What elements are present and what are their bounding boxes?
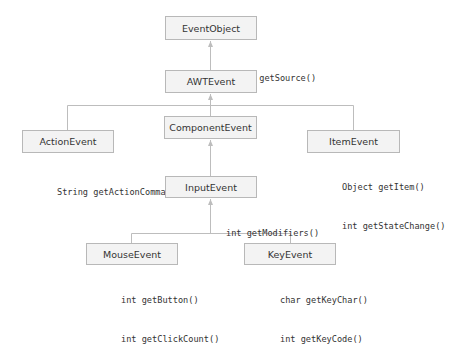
method: int getModifiers() [226, 227, 319, 240]
class-box-eventobject: EventObject [165, 16, 257, 40]
class-box-keyevent: KeyEvent [244, 243, 336, 265]
methods-itemevent: Object getItem() int getStateChange() [342, 155, 445, 246]
method: char getKeyChar() [280, 294, 378, 307]
class-box-awtevent: AWTEvent [165, 70, 257, 93]
method: int getStateChange() [342, 220, 445, 233]
class-box-itemevent: ItemEvent [307, 130, 400, 153]
class-box-mouseevent: MouseEvent [86, 243, 178, 265]
class-box-actionevent: ActionEvent [22, 130, 114, 153]
methods-mouseevent: int getButton() int getClickCount() Poin… [121, 268, 219, 347]
class-box-inputevent: InputEvent [165, 176, 257, 198]
method: Object getItem() [342, 181, 445, 194]
methods-keyevent: char getKeyChar() int getKeyCode() Strin… [280, 268, 378, 347]
method: int getClickCount() [121, 333, 219, 346]
method: int getKeyCode() [280, 333, 378, 346]
method: int getButton() [121, 294, 219, 307]
class-box-componentevent: ComponentEvent [164, 116, 257, 139]
